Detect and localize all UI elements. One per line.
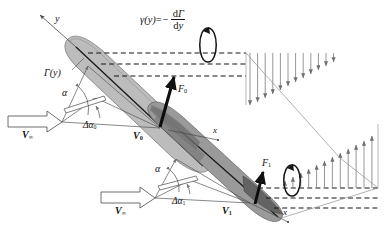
circulation-label: Γ(y) xyxy=(44,68,61,78)
delta-alpha-0-symbol: Δα xyxy=(83,120,94,130)
force-1-subscript: 1 xyxy=(268,161,271,168)
v-0-subscript: 0 xyxy=(140,134,143,141)
v-0-label: V0 xyxy=(133,131,143,141)
delta-alpha-0-label: Δα0 xyxy=(83,121,97,131)
v-1-label: V1 xyxy=(222,206,232,216)
x-axis-upper-label: x xyxy=(213,126,217,135)
force-0-label: F0 xyxy=(178,84,187,94)
v-infinity-upper-symbol: V xyxy=(22,129,29,140)
v-infinity-lower-label: V∞ xyxy=(115,206,126,216)
downwash-envelope-upper xyxy=(246,53,340,158)
gamma-minus-sign: − xyxy=(163,14,169,25)
gamma-fraction: dΓ dy xyxy=(171,8,186,31)
force-0-subscript: 0 xyxy=(184,87,187,94)
gamma-formula: γ(y) = − dΓ dy xyxy=(140,8,186,31)
gamma-numerator: dΓ xyxy=(171,8,186,19)
lower-vortex-ring xyxy=(284,164,301,196)
denominator-y: y xyxy=(179,20,184,31)
x-axis-lower-label: x xyxy=(283,208,287,217)
gamma-equals: = xyxy=(156,14,162,25)
gamma-denominator: dy xyxy=(171,19,185,31)
upper-vortex-ring xyxy=(200,27,217,62)
delta-alpha-1-label: Δα1 xyxy=(172,197,186,207)
downwash-arrows-lower xyxy=(285,136,372,188)
diagram-canvas xyxy=(0,0,391,232)
downwash-envelope-lower xyxy=(278,124,378,219)
force-1-label: F1 xyxy=(262,158,271,168)
downwash-arrows-upper xyxy=(250,53,334,105)
v-infinity-lower-symbol: V xyxy=(115,205,122,216)
v-infinity-upper-label: V∞ xyxy=(22,130,33,140)
v-infinity-upper-subscript: ∞ xyxy=(29,133,33,140)
alpha-upper-label: α xyxy=(62,88,67,98)
delta-alpha-1-symbol: Δα xyxy=(172,196,183,206)
delta-alpha-0-subscript: 0 xyxy=(94,124,97,130)
alpha-lower-label: α xyxy=(155,164,160,174)
gamma-lead: γ(y) xyxy=(140,14,156,25)
v-0-symbol: V xyxy=(133,130,140,141)
delta-alpha-1-subscript: 1 xyxy=(183,200,186,206)
v-infinity-lower-subscript: ∞ xyxy=(122,209,126,216)
numerator-capital-gamma: Γ xyxy=(178,8,184,19)
aerodynamics-diagram: y x x Γ(y) γ(y) = − dΓ dy F0 F1 α α Δα0 … xyxy=(0,0,391,232)
v-1-subscript: 1 xyxy=(229,209,232,216)
y-axis-label: y xyxy=(55,14,59,24)
v-1-symbol: V xyxy=(222,205,229,216)
